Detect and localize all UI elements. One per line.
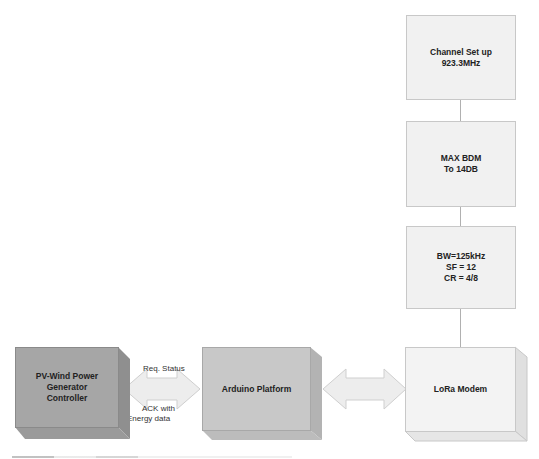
arduino-block: Arduino Platform [202,347,324,440]
controller-block: PV-Wind Power Generator Controller [15,347,133,439]
lora-modem-block: LoRa Modem [405,347,529,441]
cropped-caption-fragment [12,456,292,458]
controller-label-line-2: Controller [16,393,118,404]
controller-label-line-1: PV-Wind Power Generator [16,371,118,393]
lora-modem-label: LoRa Modem [434,384,487,395]
req-status-label: Req. Status [143,364,185,373]
arduino-label: Arduino Platform [222,384,291,395]
ack-label-line-2: Energy data [127,414,170,423]
ack-label-line-1: ACK with [142,404,175,413]
bidirectional-arrow-arduino-lora [323,369,406,409]
